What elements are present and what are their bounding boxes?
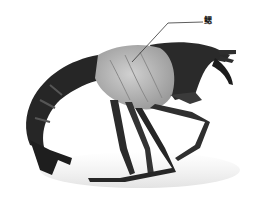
abdomen: [26, 55, 100, 150]
crayfish-illustration: [0, 0, 255, 201]
crayfish-figure: 鳃: [0, 0, 255, 201]
gill-label: 鳃: [204, 16, 212, 26]
gill-area: [95, 45, 174, 110]
